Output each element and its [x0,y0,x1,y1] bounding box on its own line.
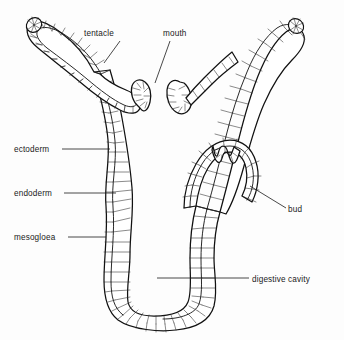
mouth-label: mouth [163,29,187,38]
hydra-illustration: tentacle mouth ectoderm endoderm mesoglo… [0,0,344,340]
mesogloea-label: mesogloea [14,233,56,242]
bud-label: bud [288,205,302,214]
tentacle-label: tentacle [84,29,114,38]
digestive-cavity-label: digestive cavity [252,275,311,284]
ectoderm-label: ectoderm [14,145,49,154]
hydra-diagram: tentacle mouth ectoderm endoderm mesoglo… [0,0,344,340]
endoderm-label: endoderm [14,189,52,198]
